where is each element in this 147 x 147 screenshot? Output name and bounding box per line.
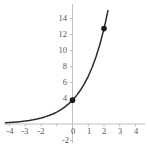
y-axis-label-8: 8 [63,62,67,71]
chart-plot-area [0,0,147,147]
y-axis-label-minus2: -2 [62,136,69,145]
x-axis-label-minus4: -4 [3,127,17,136]
exponential-curve [6,11,108,123]
curve-point [101,26,107,32]
x-axis-label-minus3: -3 [18,127,32,136]
axes-group [4,4,145,143]
x-axis-label-1: 1 [82,127,96,136]
x-axis-label-minus2: -2 [34,127,48,136]
x-axis-label-3: 3 [113,127,127,136]
y-axis-label-14: 14 [59,14,68,23]
exponential-function-chart: 14 12 10 8 6 4 -2 -4 -3 -2 0 1 2 3 4 [0,0,147,147]
y-axis-label-12: 12 [59,30,68,39]
y-axis-label-4: 4 [63,94,67,103]
y-axis-label-6: 6 [63,78,67,87]
x-axis-label-2: 2 [97,127,111,136]
x-axis-label-4: 4 [129,127,143,136]
y-axis-label-10: 10 [59,46,68,55]
x-axis-label-0: 0 [66,127,80,136]
y-intercept-point [70,97,76,103]
